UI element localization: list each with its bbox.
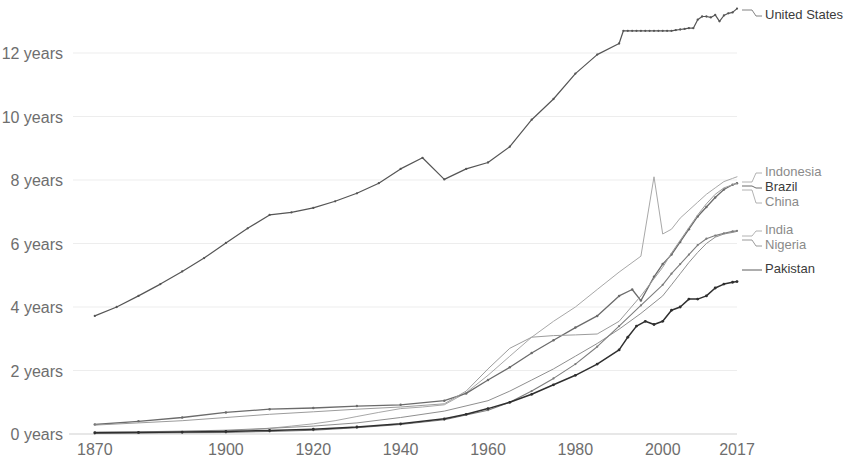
- data-point-marker: [736, 280, 739, 283]
- y-tick-label: 4 years: [11, 299, 63, 316]
- data-point-marker: [631, 288, 633, 290]
- series-line: [95, 9, 737, 316]
- y-tick-label: 2 years: [11, 363, 63, 380]
- data-point-marker: [399, 404, 401, 406]
- series-china: [95, 183, 737, 425]
- data-point-marker: [710, 16, 712, 18]
- data-point-marker: [94, 315, 96, 317]
- data-point-marker: [661, 320, 664, 323]
- data-point-marker: [697, 244, 699, 246]
- data-point-marker: [530, 393, 533, 396]
- data-point-marker: [640, 299, 642, 301]
- series-line: [95, 231, 737, 432]
- data-point-marker: [714, 14, 716, 16]
- legend-label-china[interactable]: China: [765, 194, 800, 209]
- data-point-marker: [268, 408, 270, 410]
- data-point-marker: [635, 325, 638, 328]
- data-point-marker: [675, 29, 677, 31]
- data-point-marker: [662, 284, 664, 286]
- data-point-marker: [596, 315, 598, 317]
- data-point-marker: [687, 298, 690, 301]
- data-point-marker: [618, 295, 620, 297]
- data-point-marker: [465, 413, 468, 416]
- data-point-marker: [697, 19, 699, 21]
- data-point-marker: [679, 306, 682, 309]
- data-point-marker: [640, 30, 642, 32]
- data-point-marker: [530, 352, 532, 354]
- x-tick-label: 1960: [470, 441, 506, 458]
- data-point-marker: [657, 30, 659, 32]
- x-tick-label: 2000: [645, 441, 681, 458]
- data-point-marker: [268, 214, 270, 216]
- x-tick-label: 1900: [208, 441, 244, 458]
- data-point-marker: [644, 30, 646, 32]
- data-point-marker: [718, 20, 720, 22]
- data-point-marker: [159, 283, 161, 285]
- gridlines: [73, 53, 737, 371]
- legend-label-india[interactable]: India: [765, 222, 794, 237]
- data-point-marker: [692, 27, 694, 29]
- data-point-marker: [137, 431, 140, 434]
- data-point-marker: [224, 430, 227, 433]
- data-point-marker: [93, 431, 96, 434]
- legend: United StatesIndonesiaBrazilChinaIndiaNi…: [765, 7, 844, 276]
- data-point-marker: [696, 298, 699, 301]
- series-pakistan: [93, 280, 738, 434]
- data-point-marker: [653, 323, 656, 326]
- y-axis-tick-labels: 0 years2 years4 years6 years8 years10 ye…: [2, 45, 63, 443]
- series-line: [95, 183, 737, 425]
- legend-leader-line: [742, 190, 762, 203]
- legend-label-nigeria[interactable]: Nigeria: [765, 237, 807, 252]
- data-point-marker: [705, 294, 708, 297]
- legend-leader-line: [742, 231, 762, 236]
- data-point-marker: [714, 287, 717, 290]
- legend-label-indonesia[interactable]: Indonesia: [765, 164, 822, 179]
- data-point-marker: [268, 429, 271, 432]
- data-point-marker: [312, 407, 314, 409]
- data-point-marker: [487, 379, 489, 381]
- line-chart: 0 years2 years4 years6 years8 years10 ye…: [0, 0, 855, 463]
- data-point-marker: [290, 211, 292, 213]
- data-point-marker: [443, 399, 445, 401]
- data-point-marker: [465, 168, 467, 170]
- y-tick-label: 0 years: [11, 426, 63, 443]
- data-point-marker: [247, 227, 249, 229]
- data-point-marker: [443, 178, 445, 180]
- data-point-marker: [666, 30, 668, 32]
- x-tick-label: 1980: [558, 441, 594, 458]
- data-point-marker: [622, 30, 624, 32]
- data-point-marker: [487, 407, 490, 410]
- legend-leader-line: [742, 186, 762, 188]
- legend-label-brazil[interactable]: Brazil: [765, 179, 798, 194]
- data-point-marker: [399, 168, 401, 170]
- data-point-marker: [378, 182, 380, 184]
- data-point-marker: [574, 374, 577, 377]
- data-point-marker: [509, 146, 511, 148]
- data-point-marker: [421, 157, 423, 159]
- legend-leader-line: [742, 10, 762, 16]
- data-point-marker: [618, 325, 620, 327]
- data-point-marker: [618, 348, 621, 351]
- chart-container: 0 years2 years4 years6 years8 years10 ye…: [0, 0, 855, 463]
- series-brazil: [94, 182, 739, 426]
- data-point-marker: [509, 366, 511, 368]
- legend-leader-line: [742, 173, 762, 182]
- data-point-marker: [688, 254, 690, 256]
- data-point-marker: [596, 346, 598, 348]
- data-point-marker: [465, 392, 467, 394]
- data-point-marker: [225, 411, 227, 413]
- data-point-marker: [203, 257, 205, 259]
- legend-label-pakistan[interactable]: Pakistan: [765, 261, 815, 276]
- legend-label-united-states[interactable]: United States: [765, 7, 844, 22]
- x-tick-label: 1940: [383, 441, 419, 458]
- data-point-marker: [727, 12, 729, 14]
- data-point-marker: [596, 363, 599, 366]
- data-point-marker: [644, 320, 647, 323]
- x-tick-label: 1920: [295, 441, 331, 458]
- data-point-marker: [662, 30, 664, 32]
- data-point-marker: [731, 281, 734, 284]
- data-point-marker: [137, 420, 139, 422]
- data-point-marker: [531, 119, 533, 121]
- series-line: [95, 282, 737, 433]
- data-point-marker: [552, 383, 555, 386]
